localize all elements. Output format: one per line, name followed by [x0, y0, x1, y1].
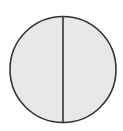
halved-circle-diagram	[0, 0, 123, 131]
